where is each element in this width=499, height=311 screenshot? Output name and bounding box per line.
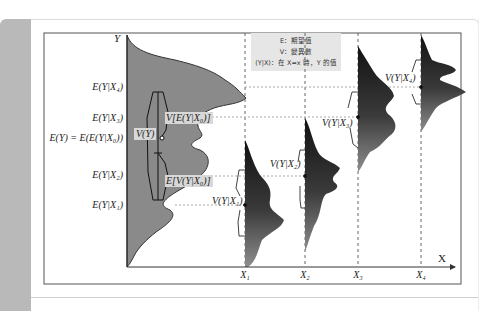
legend-line-3: (Y|X)：在 X=x 時，Y 的值	[255, 58, 337, 67]
label-x1: X₁	[239, 269, 250, 280]
y-axis-label: Y	[114, 32, 122, 44]
label-v-y-x1: V(Y|X₁)	[212, 195, 243, 207]
x-axis-label: X	[438, 252, 446, 264]
label-x2: X₂	[299, 269, 310, 280]
legend-line-1: E：期望值	[280, 36, 312, 45]
label-e-v: E[V(Y|X₀)]	[165, 175, 211, 187]
label-v-y-x2: V(Y|X₂)	[270, 158, 301, 170]
label-e-y-x1: E(Y|X₁)	[91, 199, 123, 211]
marginal-distribution	[127, 35, 246, 267]
label-e-y-x3: E(Y|X₃)	[91, 112, 123, 124]
conditional-dist-x4	[421, 35, 466, 132]
legend-line-2: V：變異數	[280, 47, 312, 56]
label-v-y-x4: V(Y|X₄)	[385, 72, 416, 84]
variance-diagram: E：期望值 V：變異數 (Y|X)：在 X=x 時，Y 的值	[0, 0, 499, 311]
label-v-e: V[E(Y|X₀)]	[166, 112, 211, 124]
label-v-y-x3: V(Y|X₃)	[322, 117, 353, 129]
label-e-y: E(Y) = E(E(Y|X₀))	[48, 132, 123, 144]
label-v-y: V(Y)	[136, 128, 155, 140]
legend: E：期望值 V：變異數 (Y|X)：在 X=x 時，Y 的值	[251, 33, 341, 71]
label-e-y-x2: E(Y|X₂)	[91, 169, 123, 181]
label-x4: X₄	[415, 269, 426, 280]
label-x3: X₃	[352, 269, 363, 280]
conditional-dist-x3	[358, 46, 395, 172]
conditional-dist-x2	[305, 118, 340, 252]
label-e-y-x4: E(Y|X₄)	[91, 81, 123, 93]
